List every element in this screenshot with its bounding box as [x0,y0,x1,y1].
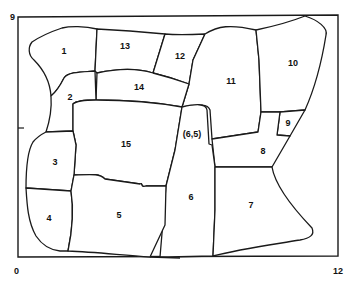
parcel-label-7: 7 [248,200,253,210]
parcel-label-4: 4 [46,213,51,223]
parcel-label-3: 3 [52,157,57,167]
parcel-label-5: 5 [116,210,121,220]
parcel-label-6: 6 [188,192,193,202]
parcel-label-10: 10 [288,58,298,68]
parcel-label-9: 9 [285,118,290,128]
parcel-3[interactable] [26,131,76,191]
parcel-label-14: 14 [134,82,144,92]
parcel-7[interactable] [213,167,313,256]
parcel-label-13: 13 [120,41,130,51]
parcel-label-6-5: (6,5) [183,129,202,139]
parcel-label-8: 8 [260,146,265,156]
x-max-label: 12 [333,266,343,276]
parcel-9[interactable] [277,110,305,136]
origin-label: 0 [14,266,19,276]
parcel-label-11: 11 [226,76,236,86]
parcel-label-2: 2 [67,92,72,102]
parcel-label-1: 1 [61,46,66,56]
parcel-map: 9 0 12 1 2 3 4 5 6 (6,5) 7 8 9 10 11 12 … [0,0,356,286]
y-max-label: 9 [10,12,15,22]
parcel-label-15: 15 [121,139,131,149]
parcel-label-12: 12 [175,51,185,61]
